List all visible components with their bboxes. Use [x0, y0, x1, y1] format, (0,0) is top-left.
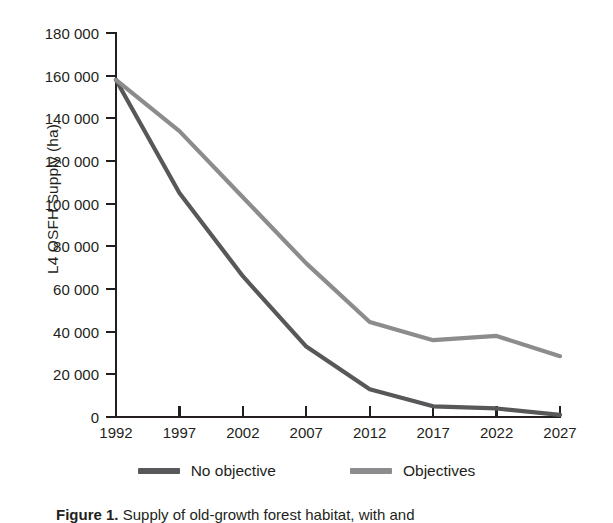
series-line-objectives [116, 80, 560, 356]
y-axis-tick: 160 000 [106, 75, 117, 77]
legend-label: No objective [191, 462, 276, 480]
y-axis-tick-label: 160 000 [45, 67, 99, 84]
y-axis-tick: 80 000 [106, 245, 117, 247]
x-axis-line [115, 416, 561, 418]
legend-item: Objectives [350, 462, 475, 480]
y-axis-tick: 180 000 [106, 32, 117, 34]
y-axis-tick-label: 60 000 [53, 280, 99, 297]
x-axis-tick [432, 406, 434, 417]
x-axis-tick-label: 1997 [163, 424, 196, 441]
x-axis-tick-label: 2027 [543, 424, 576, 441]
x-axis-tick [559, 406, 561, 417]
y-axis-tick-label: 80 000 [53, 238, 99, 255]
y-axis-tick: 20 000 [106, 373, 117, 375]
x-axis-tick-label: 2022 [480, 424, 513, 441]
y-axis-tick-label: 0 [91, 408, 99, 425]
x-axis-tick-label: 2007 [290, 424, 323, 441]
y-axis-tick: 100 000 [106, 203, 117, 205]
x-axis-tick-label: 1992 [99, 424, 132, 441]
y-axis-tick-label: 140 000 [45, 110, 99, 127]
legend-swatch-icon [350, 468, 392, 474]
y-axis-tick-label: 120 000 [45, 152, 99, 169]
y-axis-tick-label: 40 000 [53, 323, 99, 340]
x-axis-tick [495, 406, 497, 417]
legend-swatch-icon [138, 468, 180, 474]
x-axis-tick [115, 406, 117, 417]
legend-item: No objective [138, 462, 276, 480]
caption-text: Supply of old-growth forest habitat, wit… [123, 506, 415, 523]
y-axis-tick: 60 000 [106, 288, 117, 290]
y-axis-tick-label: 20 000 [53, 366, 99, 383]
y-axis-tick-label: 180 000 [45, 24, 99, 41]
series-line-no-objective [116, 80, 560, 415]
caption-figure-label: Figure 1. [56, 506, 119, 523]
y-axis-tick-label: 100 000 [45, 195, 99, 212]
y-axis-line [115, 32, 117, 418]
y-axis-tick: 140 000 [106, 117, 117, 119]
x-axis-tick [305, 406, 307, 417]
x-axis-tick-label: 2002 [226, 424, 259, 441]
x-axis-tick-label: 2017 [416, 424, 449, 441]
figure-caption: Figure 1. Supply of old-growth forest ha… [56, 506, 596, 523]
x-axis-tick-label: 2012 [353, 424, 386, 441]
x-axis-tick [242, 406, 244, 417]
x-axis-tick [178, 406, 180, 417]
legend-label: Objectives [403, 462, 475, 480]
chart-legend: No objectiveObjectives [0, 462, 613, 480]
y-axis-tick: 120 000 [106, 160, 117, 162]
x-axis-tick [369, 406, 371, 417]
y-axis-tick: 40 000 [106, 331, 117, 333]
